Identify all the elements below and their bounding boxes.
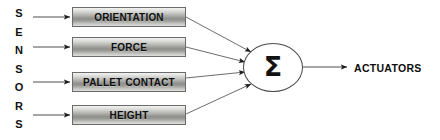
wire-orientation-to-sigma: [186, 17, 251, 52]
sensors-letter: S: [15, 64, 22, 75]
sensor-box-label: HEIGHT: [110, 110, 149, 121]
sensor-box-force[interactable]: FORCE: [72, 37, 186, 57]
sensors-letter: S: [15, 119, 22, 130]
sigma-icon: Σ: [264, 53, 282, 80]
sensors-letter: E: [15, 27, 22, 38]
sensor-box-height[interactable]: HEIGHT: [72, 105, 186, 125]
sensors-letter: R: [15, 101, 23, 112]
summation-input-wires: [186, 17, 251, 114]
diagram-canvas: S E N S O R S: [0, 0, 440, 140]
wire-pallet-to-sigma: [186, 72, 245, 78]
sensors-letter: O: [15, 82, 24, 93]
sensor-box-label: ORIENTATION: [94, 12, 164, 23]
sensor-box-label: FORCE: [111, 42, 147, 53]
sensor-input-arrows: [33, 17, 70, 115]
sensor-box-pallet-contact[interactable]: PALLET CONTACT: [72, 72, 186, 92]
sensor-box-label: PALLET CONTACT: [83, 77, 175, 88]
wire-height-to-sigma: [186, 84, 251, 114]
sensors-group-label: S E N S O R S: [10, 8, 28, 130]
wire-force-to-sigma: [186, 47, 245, 62]
summation-node[interactable]: Σ: [243, 43, 303, 92]
sensor-box-orientation[interactable]: ORIENTATION: [72, 7, 186, 27]
actuators-label: ACTUATORS: [354, 62, 422, 74]
sensors-letter: N: [15, 45, 23, 56]
sensors-letter: S: [15, 8, 22, 19]
